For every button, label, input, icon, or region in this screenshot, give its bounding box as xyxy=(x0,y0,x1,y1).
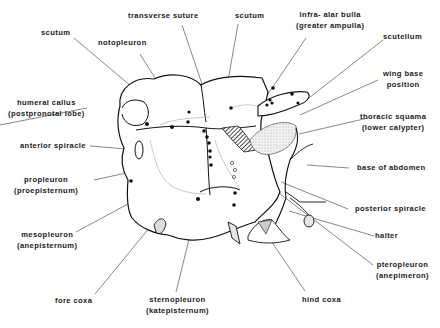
thorax-body xyxy=(118,75,280,240)
thorax-diagram: transverse suture scutum notopleuron scu… xyxy=(0,0,440,328)
label-scutellum: scutellum xyxy=(383,31,422,42)
anterior-spiracle-shape xyxy=(135,141,143,159)
label-transverse-suture: transverse suture xyxy=(128,10,199,21)
label-sternopleuron: sternopleuron(katepisternum) xyxy=(146,294,209,316)
label-thoracic-squama: thoracic squama(lower calypter) xyxy=(360,111,426,133)
label-posterior-spiracle: posterior spiracle xyxy=(355,203,426,214)
label-hind-coxa: hind coxa xyxy=(302,294,341,305)
label-anterior-spiracle: anterior spiracle xyxy=(20,140,86,151)
label-pteropleuron: pteropleuron(anepimeron) xyxy=(376,259,429,281)
label-humeral-callus: humeral callus(postpronotal lobe) xyxy=(8,97,85,119)
label-mesopleuron: mesopleuron(anepisternum) xyxy=(17,229,77,251)
label-base-of-abdomen: base of abdomen xyxy=(357,162,425,173)
label-wing-base-position: wing baseposition xyxy=(383,68,423,90)
label-fore-coxa: fore coxa xyxy=(55,295,92,306)
label-propleuron: propleuron(proepisternum) xyxy=(14,174,78,196)
label-notopleuron: notopleuron xyxy=(98,37,147,48)
label-scutum-left: scutum xyxy=(41,27,70,38)
label-halter: halter xyxy=(375,230,398,241)
label-infra-alar-bulla: infra- alar bulla(greater ampulla) xyxy=(296,9,364,31)
halter-shape xyxy=(286,192,326,227)
label-scutum-right: scutum xyxy=(235,10,264,21)
